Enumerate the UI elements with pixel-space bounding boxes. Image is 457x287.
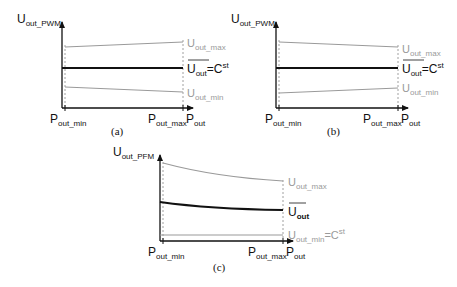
curve-u-out-mean xyxy=(160,202,283,210)
label-u-out-min: Uout_min xyxy=(402,82,438,97)
label-u-out-mean: Uout xyxy=(288,205,309,221)
curve-u-out-min xyxy=(65,87,183,92)
label-u-out-min: Uout_min xyxy=(187,87,223,102)
label-u-out-max: Uout_max xyxy=(402,43,441,58)
x-tick-label-max: Pout_max xyxy=(148,112,187,128)
x-axis-label: Pout xyxy=(401,112,421,128)
x-tick-label-min: Pout_min xyxy=(50,112,86,128)
figure-canvas: Uout_PWM Uout_max Uout=Cst Uout_min Pout… xyxy=(0,0,457,287)
curve-u-out-max xyxy=(163,163,283,181)
caption: (c) xyxy=(213,261,226,274)
panel-a: Uout_PWM Uout_max Uout=Cst Uout_min Pout… xyxy=(17,12,229,138)
panel-c: Uout_PFM Uout_max Uout Uout_min=Cst Pout… xyxy=(113,145,346,274)
label-u-out-min: Uout_min=Cst xyxy=(288,227,346,244)
panel-b: Uout_PWM Uout_max Uout=Cst Uout_min Pout… xyxy=(231,12,444,138)
x-axis-label: Pout xyxy=(186,112,206,128)
y-axis-label: Uout_PWM xyxy=(17,12,61,28)
x-tick-label-max: Pout_max xyxy=(248,245,287,261)
label-u-out-max: Uout_max xyxy=(288,176,327,191)
x-tick-label-min: Pout_min xyxy=(265,112,301,128)
curve-u-out-max xyxy=(65,42,183,47)
label-u-out-max: Uout_max xyxy=(187,37,226,52)
y-axis-label: Uout_PWM xyxy=(231,12,275,28)
x-axis-label: Pout xyxy=(286,245,306,261)
x-tick-label-min: Pout_min xyxy=(148,245,184,261)
label-u-out-mean: Uout=Cst xyxy=(402,61,444,78)
caption: (b) xyxy=(327,125,340,138)
caption: (a) xyxy=(111,125,124,138)
curve-u-out-max xyxy=(279,42,398,47)
y-axis-label: Uout_PFM xyxy=(113,145,154,161)
curve-u-out-min xyxy=(279,88,398,93)
label-u-out-mean: Uout=Cst xyxy=(187,61,229,78)
x-tick-label-max: Pout_max xyxy=(363,112,402,128)
